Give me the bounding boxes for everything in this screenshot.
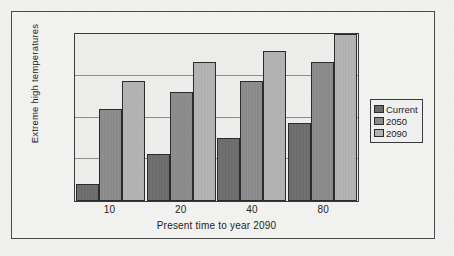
bar-group xyxy=(147,34,216,201)
bar-2090-80 xyxy=(334,34,357,201)
legend-label: 2050 xyxy=(386,116,407,127)
bar-series-container xyxy=(75,34,358,201)
bar-2050-80 xyxy=(311,62,334,201)
legend-item-2050[interactable]: 2050 xyxy=(374,115,418,127)
x-tick-label-10: 10 xyxy=(75,204,144,215)
legend-label: Current xyxy=(386,104,418,115)
bar-group xyxy=(217,34,286,201)
x-axis-title: Present time to year 2090 xyxy=(74,220,359,231)
legend-swatch-2090-icon xyxy=(374,129,384,137)
legend-item-current[interactable]: Current xyxy=(374,103,418,115)
legend-item-2090[interactable]: 2090 xyxy=(374,127,418,139)
x-tick-label-80: 80 xyxy=(289,204,358,215)
bar-2050-40 xyxy=(240,81,263,201)
bar-2090-40 xyxy=(263,51,286,201)
legend-label: 2090 xyxy=(386,128,407,139)
bar-current-20 xyxy=(147,154,170,201)
bar-2050-10 xyxy=(99,109,122,201)
plot-area xyxy=(74,33,359,202)
legend-swatch-2050-icon xyxy=(374,117,384,125)
bar-2050-20 xyxy=(170,92,193,201)
bar-2090-20 xyxy=(193,62,216,201)
x-tick-label-20: 20 xyxy=(146,204,215,215)
chart-legend: Current20502090 xyxy=(370,99,423,143)
y-axis-title: Extreme high temperatures xyxy=(29,4,40,164)
scanned-page: Extreme high temperatures 10204080 Prese… xyxy=(0,0,454,256)
bar-current-40 xyxy=(217,138,240,201)
bar-group xyxy=(288,34,357,201)
bar-current-10 xyxy=(76,184,99,201)
x-tick-label-40: 40 xyxy=(218,204,287,215)
legend-swatch-current-icon xyxy=(374,105,384,113)
bar-current-80 xyxy=(288,123,311,201)
chart-frame: Extreme high temperatures 10204080 Prese… xyxy=(11,11,435,239)
bar-group xyxy=(76,34,145,201)
bar-2090-10 xyxy=(122,81,145,201)
